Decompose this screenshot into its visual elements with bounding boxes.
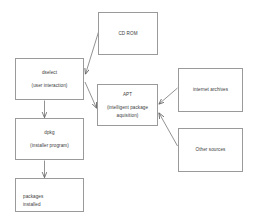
node-dpkg-sublabel: (installer program) xyxy=(30,142,69,149)
node-apt-sublabel: (intelligent package aquisition) xyxy=(100,104,156,118)
node-other-sources[interactable]: Other sources xyxy=(178,128,243,172)
node-dpkg-label: dpkg xyxy=(44,129,54,136)
edge-other-sources-to-apt xyxy=(159,113,178,146)
node-dselect-sublabel: (user interaction) xyxy=(32,82,68,89)
flowchart-diagram: CD ROM dselect (user interaction) APT (i… xyxy=(0,0,253,224)
node-apt[interactable]: APT (intelligent package aquisition) xyxy=(97,84,158,126)
edge-cdrom-to-dselect xyxy=(86,32,99,74)
edge-internet-archives-to-apt xyxy=(159,88,178,104)
node-cd-rom-label: CD ROM xyxy=(118,30,137,37)
node-dselect[interactable]: dselect (user interaction) xyxy=(15,58,84,100)
node-packages-installed-sublabel: installed xyxy=(23,201,41,209)
node-other-sources-label: Other sources xyxy=(196,146,226,153)
node-dselect-label: dselect xyxy=(42,69,57,76)
node-packages-installed[interactable]: packages installed xyxy=(15,178,84,212)
node-cd-rom[interactable]: CD ROM xyxy=(98,12,158,55)
edge-dselect-to-apt xyxy=(85,82,97,108)
node-internet-archives[interactable]: internet archives xyxy=(178,68,243,112)
node-packages-installed-label: packages xyxy=(23,193,43,201)
node-internet-archives-label: internet archives xyxy=(193,86,228,93)
node-apt-label: APT xyxy=(123,91,132,98)
node-dpkg[interactable]: dpkg (installer program) xyxy=(15,118,84,160)
